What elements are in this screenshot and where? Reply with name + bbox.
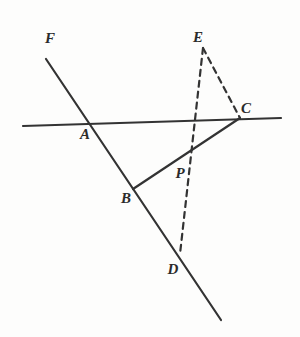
figure-background <box>0 0 300 337</box>
point-label-b: B <box>120 190 131 206</box>
point-label-c: C <box>241 100 252 116</box>
point-label-a: A <box>79 126 90 142</box>
point-label-e: E <box>192 29 203 45</box>
point-label-f: F <box>44 30 55 46</box>
point-label-d: D <box>167 261 179 277</box>
figure-canvas: FABCDEP <box>0 0 300 337</box>
point-label-p: P <box>175 165 185 181</box>
geometry-figure: FABCDEP <box>0 0 300 337</box>
